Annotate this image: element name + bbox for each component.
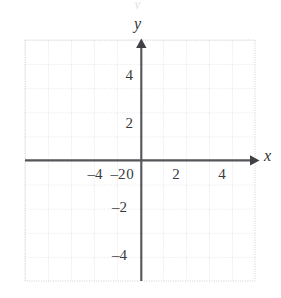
x-tick-label-pos4: 4 xyxy=(209,167,235,182)
y-tick-label-pos2: 2 xyxy=(107,116,133,131)
x-tick-label-pos2: 2 xyxy=(163,167,189,182)
y-tick-label-pos4: 4 xyxy=(107,68,133,83)
y-tick-label-neg4: –4 xyxy=(101,248,127,263)
coordinate-plane-svg xyxy=(0,0,281,298)
x-axis-label: x xyxy=(264,148,271,164)
coordinate-grid-figure: y y x –4 –2 0 2 4 4 2 –2 –4 xyxy=(0,0,281,298)
y-axis-label: y xyxy=(134,16,141,32)
y-tick-label-neg2: –2 xyxy=(101,200,127,215)
x-tick-label-zero: 0 xyxy=(117,167,143,182)
